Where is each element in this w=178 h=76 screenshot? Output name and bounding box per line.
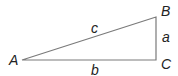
- vertex-label-c: C: [161, 56, 172, 72]
- triangle-diagram: A B C c a b: [0, 0, 178, 76]
- side-label-b: b: [91, 62, 99, 76]
- side-label-c: c: [91, 20, 98, 36]
- triangle-outline: [22, 17, 156, 60]
- side-label-a: a: [162, 29, 170, 45]
- vertex-label-a: A: [8, 52, 18, 68]
- vertex-label-b: B: [161, 3, 170, 19]
